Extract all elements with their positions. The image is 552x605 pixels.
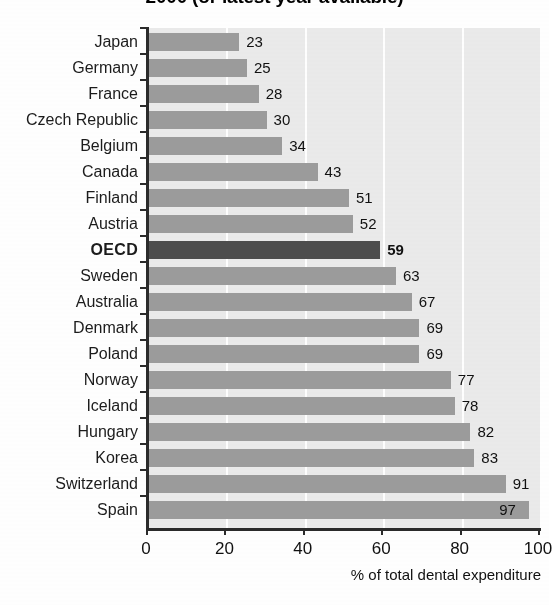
y-axis-tick [140,157,149,159]
y-axis-tick [140,209,149,211]
bar-value-label: 78 [462,396,479,415]
category-label-poland: Poland [0,341,138,367]
y-axis-tick [140,417,149,419]
category-label-switzerland: Switzerland [0,471,138,497]
bar-iceland [149,397,455,415]
bar-germany [149,59,247,77]
bar-value-label: 43 [325,162,342,181]
category-label-france: France [0,81,138,107]
x-axis-tick-60 [381,528,383,535]
x-axis-label-100: 100 [524,538,552,560]
bar-value-label: 28 [266,84,283,103]
y-axis-tick [140,443,149,445]
y-axis-tick [140,339,149,341]
category-label-hungary: Hungary [0,419,138,445]
bar-row: 78 [149,393,541,419]
x-axis-ticks [146,528,541,536]
bar-norway [149,371,451,389]
y-axis-tick [140,27,149,29]
y-axis-tick [140,391,149,393]
bar-row: 43 [149,159,541,185]
bar-value-label: 69 [426,318,443,337]
bar-row: 52 [149,211,541,237]
bar-austria [149,215,353,233]
x-axis-tick-40 [303,528,305,535]
bar-value-label: 51 [356,188,373,207]
x-axis-tick-labels: 020406080100 [0,538,549,562]
category-label-finland: Finland [0,185,138,211]
x-axis-tick-20 [224,528,226,535]
y-axis-tick [140,469,149,471]
category-label-belgium: Belgium [0,133,138,159]
bar-poland [149,345,419,363]
bar-value-label: 67 [419,292,436,311]
x-axis-caption: % of total dental expenditure [351,566,541,583]
bar-value-label: 69 [426,344,443,363]
bar-row: 28 [149,81,541,107]
bar-value-label: 52 [360,214,377,233]
bar-hungary [149,423,470,441]
x-axis-label-60: 60 [372,538,391,560]
bar-finland [149,189,349,207]
plot-area: 23252830344351525963676969777882839197 [146,28,541,531]
bar-row: 67 [149,289,541,315]
bar-sweden [149,267,396,285]
bar-france [149,85,259,103]
bar-row: 30 [149,107,541,133]
y-axis-tick [140,79,149,81]
x-axis-label-80: 80 [450,538,469,560]
bar-switzerland [149,475,506,493]
bar-czech-republic [149,111,267,129]
bar-row: 51 [149,185,541,211]
bar-row: 69 [149,315,541,341]
bar-row: 59 [149,237,541,263]
bar-row: 25 [149,55,541,81]
bar-row: 97 [149,497,541,523]
y-axis-tick [140,313,149,315]
category-label-australia: Australia [0,289,138,315]
bar-oecd [149,241,380,259]
y-axis-tick [140,235,149,237]
y-axis-tick [140,365,149,367]
category-label-canada: Canada [0,159,138,185]
bar-row: 91 [149,471,541,497]
bar-value-label: 83 [481,448,498,467]
bar-row: 63 [149,263,541,289]
bar-australia [149,293,412,311]
bar-canada [149,163,318,181]
x-axis-tick-80 [460,528,462,535]
x-axis-label-20: 20 [215,538,234,560]
bar-spain [149,501,529,519]
bar-value-label: 23 [246,32,263,51]
category-label-norway: Norway [0,367,138,393]
category-label-denmark: Denmark [0,315,138,341]
y-axis-tick [140,105,149,107]
bar-row: 34 [149,133,541,159]
category-label-korea: Korea [0,445,138,471]
x-axis-label-40: 40 [293,538,312,560]
bar-value-label: 77 [458,370,475,389]
bar-value-label: 97 [499,500,516,519]
bar-value-label: 63 [403,266,420,285]
y-axis-tick [140,131,149,133]
y-axis-tick [140,495,149,497]
bar-row: 82 [149,419,541,445]
category-label-sweden: Sweden [0,263,138,289]
bar-value-label: 34 [289,136,306,155]
bar-value-label: 25 [254,58,271,77]
bar-value-label: 59 [387,240,404,259]
bar-denmark [149,319,419,337]
category-label-oecd: OECD [0,237,138,263]
x-axis-label-0: 0 [141,538,150,560]
y-axis-tick [140,261,149,263]
bar-row: 23 [149,29,541,55]
y-axis-tick [140,287,149,289]
chart-title: 2000 (or latest year available) [0,0,549,7]
category-label-japan: Japan [0,29,138,55]
bar-japan [149,33,239,51]
category-axis-labels: JapanGermanyFranceCzech RepublicBelgiumC… [0,28,138,528]
category-label-austria: Austria [0,211,138,237]
bar-value-label: 30 [274,110,291,129]
bar-belgium [149,137,282,155]
